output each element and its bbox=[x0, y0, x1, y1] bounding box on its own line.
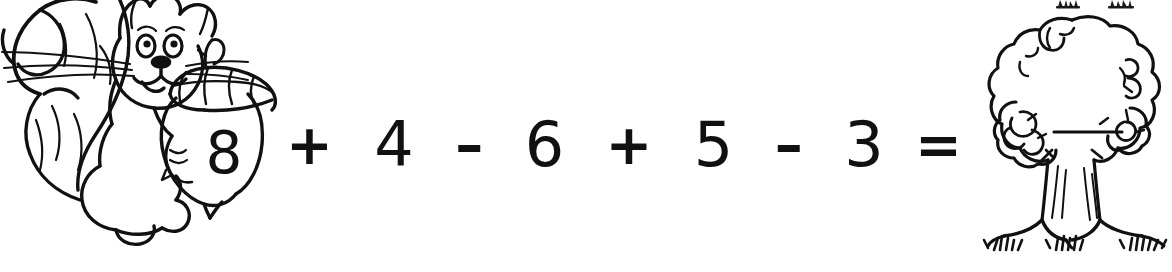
math-worksheet-page: 8 + 4 – 6 + 5 – 3 = bbox=[0, 0, 1172, 272]
minus-sign-2: – bbox=[775, 117, 803, 173]
operand-5: 5 bbox=[694, 114, 733, 176]
operand-4: 4 bbox=[374, 114, 413, 176]
minus-sign-1: – bbox=[455, 117, 483, 173]
number-sentence: + 4 – 6 + 5 – 3 = bbox=[286, 112, 962, 178]
squirrel-illustration bbox=[0, 0, 300, 272]
plus-sign-1: + bbox=[286, 117, 333, 173]
plus-sign-2: + bbox=[606, 117, 653, 173]
operand-6: 6 bbox=[525, 114, 564, 176]
answer-blank-line[interactable] bbox=[1052, 118, 1130, 152]
operand-3: 3 bbox=[844, 114, 883, 176]
equals-sign: = bbox=[915, 117, 962, 173]
acorn-number-8: 8 bbox=[196, 124, 252, 182]
